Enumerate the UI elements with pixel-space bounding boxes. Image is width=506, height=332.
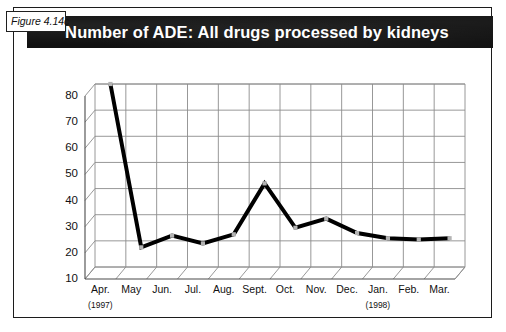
y-tick-label: 30 [52,220,78,232]
figure-container: Number of ADE: All drugs processed by ki… [0,0,506,332]
x-tick-label: Mar. [420,283,460,295]
chart-plot-area: 1020304050607080 Apr.MayJun.Jul.Aug.Sept… [27,55,487,313]
year-annotation: (1997) [78,300,122,310]
y-tick-label: 20 [52,246,78,258]
y-tick-label: 40 [52,194,78,206]
y-tick-label: 50 [52,167,78,179]
chart-title: Number of ADE: All drugs processed by ki… [27,23,487,42]
chart-title-band: Number of ADE: All drugs processed by ki… [27,16,493,48]
y-tick-label: 80 [52,89,78,101]
y-tick-label: 70 [52,115,78,127]
y-tick-label: 10 [52,272,78,284]
figure-number-box: Figure 4.14c [6,11,66,32]
y-tick-label: 60 [52,141,78,153]
year-annotation: (1998) [356,300,400,310]
line-chart-graphic [27,55,487,313]
figure-number-label: Figure 4.14c [11,15,69,27]
